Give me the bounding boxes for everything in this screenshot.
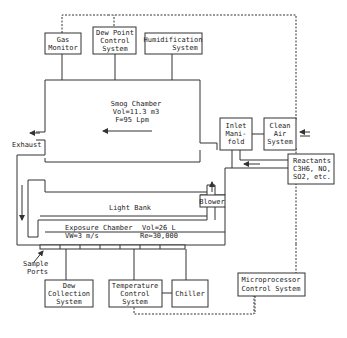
chiller-box: Chiller <box>172 280 208 307</box>
sample-ports-strip <box>40 245 185 249</box>
dew-collection-system-box: Dew Collection System <box>45 280 93 307</box>
svg-text:Chiller: Chiller <box>175 290 205 298</box>
svg-text:Vol=26 L: Vol=26 L <box>142 224 176 232</box>
svg-text:Exposure Chamber: Exposure Chamber <box>65 224 132 232</box>
svg-text:System: System <box>172 44 197 52</box>
svg-text:Gas: Gas <box>57 36 70 44</box>
svg-text:VW=3 m/s: VW=3 m/s <box>65 232 99 240</box>
svg-text:System: System <box>102 45 127 53</box>
svg-text:Inlet: Inlet <box>225 122 246 130</box>
svg-text:Re≈30,000: Re≈30,000 <box>140 232 178 240</box>
svg-text:Control System: Control System <box>241 285 300 293</box>
svg-text:Control: Control <box>100 37 130 45</box>
svg-text:Reactants: Reactants <box>293 157 331 165</box>
smog-chamber-title: Smog Chamber <box>111 100 162 108</box>
smog-chamber-system-diagram: Gas Monitor Dew Point Control System Hum… <box>0 0 347 338</box>
svg-text:fold: fold <box>228 138 245 146</box>
control-signal-lines <box>62 15 296 314</box>
blower-box: Blower <box>199 195 225 207</box>
svg-text:Control: Control <box>120 290 150 298</box>
svg-text:System: System <box>267 138 292 146</box>
sample-ports-label: Sample <box>23 260 48 268</box>
svg-text:Dew: Dew <box>63 282 76 290</box>
clean-air-system-box: Clean Air System <box>264 118 296 150</box>
svg-text:Air: Air <box>274 130 287 138</box>
svg-text:Temperature: Temperature <box>112 282 158 290</box>
microprocessor-control-system-box: Microprocessor Control System <box>238 273 305 296</box>
svg-text:Blower: Blower <box>199 198 224 206</box>
svg-text:System: System <box>56 298 81 306</box>
svg-text:C3H6, NO,: C3H6, NO, <box>293 165 331 173</box>
svg-text:Microprocessor: Microprocessor <box>241 276 300 284</box>
svg-text:Humidification: Humidification <box>143 36 202 44</box>
reactants-box: Reactants C3H6, NO, SO2, etc. <box>288 154 334 184</box>
smog-chamber-volume: Vol=11.3 m3 <box>113 108 159 116</box>
svg-text:Monitor: Monitor <box>48 44 78 52</box>
smog-chamber-flow: F=95 Lpm <box>115 116 149 124</box>
temperature-control-system-box: Temperature Control System <box>109 280 162 307</box>
svg-text:Collection: Collection <box>48 290 90 298</box>
svg-text:Dew Point: Dew Point <box>96 29 134 37</box>
dew-point-control-box: Dew Point Control System <box>93 27 136 54</box>
light-bank-label: Light Bank <box>109 204 152 212</box>
svg-text:Ports: Ports <box>27 268 48 276</box>
svg-text:Mani-: Mani- <box>225 130 246 138</box>
exhaust-label: Exhaust <box>12 141 42 149</box>
humidification-system-box: Humidification System <box>143 33 202 54</box>
smog-chamber: Smog Chamber Vol=11.3 m3 F=95 Lpm <box>17 80 217 162</box>
svg-text:SO2, etc.: SO2, etc. <box>293 173 331 181</box>
gas-monitor-box: Gas Monitor <box>45 33 81 54</box>
svg-text:Clean: Clean <box>269 122 290 130</box>
svg-text:System: System <box>122 298 147 306</box>
inlet-manifold-box: Inlet Mani- fold <box>220 118 252 150</box>
